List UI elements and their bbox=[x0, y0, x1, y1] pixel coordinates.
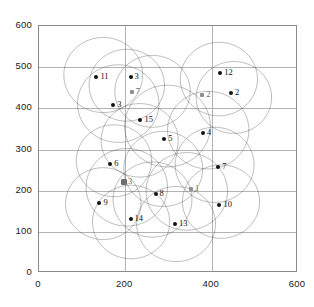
data-point-marker[interactable] bbox=[121, 179, 127, 185]
data-point-label: 6 bbox=[114, 158, 118, 168]
data-point-marker[interactable] bbox=[97, 201, 101, 205]
data-point-label: 3 bbox=[117, 99, 121, 109]
y-axis-tick-label: 400 bbox=[2, 101, 32, 112]
data-point-label: 3 bbox=[135, 71, 139, 81]
data-point-label: 2 bbox=[235, 87, 239, 97]
x-axis-tick-label: 600 bbox=[280, 278, 314, 289]
data-point-label: 7 bbox=[222, 161, 226, 171]
coverage-circle bbox=[125, 85, 211, 167]
data-point-marker[interactable] bbox=[129, 75, 133, 79]
gridline-horizontal bbox=[39, 108, 296, 109]
data-point-marker[interactable] bbox=[189, 187, 193, 191]
data-point-label: 3 bbox=[128, 176, 132, 186]
data-point-label: 10 bbox=[223, 199, 232, 209]
data-point-marker[interactable] bbox=[94, 75, 98, 79]
data-point-marker[interactable] bbox=[217, 203, 221, 207]
y-axis-tick-label: 100 bbox=[2, 225, 32, 236]
y-axis-tick-label: 500 bbox=[2, 60, 32, 71]
x-axis-tick-label: 0 bbox=[21, 278, 55, 289]
data-point-marker[interactable] bbox=[162, 137, 166, 141]
plot-area: 1137315512224673189101413 bbox=[38, 25, 297, 272]
data-point-label: 9 bbox=[103, 197, 107, 207]
data-point-label: 1 bbox=[195, 183, 199, 193]
data-point-marker[interactable] bbox=[218, 71, 222, 75]
coverage-circle bbox=[182, 165, 259, 239]
data-point-label: 4 bbox=[207, 127, 211, 137]
data-point-label: 13 bbox=[179, 218, 188, 228]
gridline-vertical bbox=[212, 26, 213, 271]
gridline-horizontal bbox=[39, 67, 296, 68]
data-point-marker[interactable] bbox=[229, 91, 233, 95]
data-point-label: 5 bbox=[168, 133, 172, 143]
y-axis-tick-label: 200 bbox=[2, 184, 32, 195]
data-point-label: 15 bbox=[144, 114, 153, 124]
y-axis-tick-label: 600 bbox=[2, 19, 32, 30]
gridline-horizontal bbox=[39, 232, 296, 233]
gridline-horizontal bbox=[39, 150, 296, 151]
data-point-label: 8 bbox=[160, 188, 164, 198]
y-axis-tick-label: 0 bbox=[2, 266, 32, 277]
data-point-marker[interactable] bbox=[201, 131, 205, 135]
data-point-marker[interactable] bbox=[130, 90, 134, 94]
data-point-marker[interactable] bbox=[154, 192, 158, 196]
x-axis-tick-label: 200 bbox=[107, 278, 141, 289]
data-point-label: 12 bbox=[224, 67, 233, 77]
gridline-horizontal bbox=[39, 191, 296, 192]
coverage-circle bbox=[180, 42, 257, 116]
coverage-circle bbox=[89, 49, 164, 121]
y-axis-tick-label: 300 bbox=[2, 143, 32, 154]
data-point-marker[interactable] bbox=[108, 162, 112, 166]
coverage-circle bbox=[101, 104, 178, 177]
coverage-circle bbox=[86, 149, 167, 227]
data-point-marker[interactable] bbox=[129, 217, 133, 221]
data-point-marker[interactable] bbox=[173, 222, 177, 226]
gridline-vertical bbox=[125, 26, 126, 271]
scatter-plot-figure: 0100200300400500600 0200400600 113731551… bbox=[0, 0, 314, 307]
data-point-marker[interactable] bbox=[111, 103, 115, 107]
data-point-label: 14 bbox=[135, 213, 144, 223]
data-point-marker[interactable] bbox=[138, 118, 142, 122]
data-point-marker[interactable] bbox=[216, 165, 220, 169]
x-axis-tick-label: 400 bbox=[194, 278, 228, 289]
data-point-label: 2 bbox=[206, 89, 210, 99]
data-point-marker[interactable] bbox=[200, 93, 204, 97]
data-point-label: 11 bbox=[100, 71, 108, 81]
data-point-label: 7 bbox=[136, 86, 140, 96]
coverage-circle-layer bbox=[39, 26, 296, 271]
